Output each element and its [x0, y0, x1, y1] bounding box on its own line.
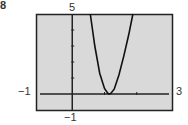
plot [0, 0, 188, 125]
plot-frame [37, 15, 173, 111]
